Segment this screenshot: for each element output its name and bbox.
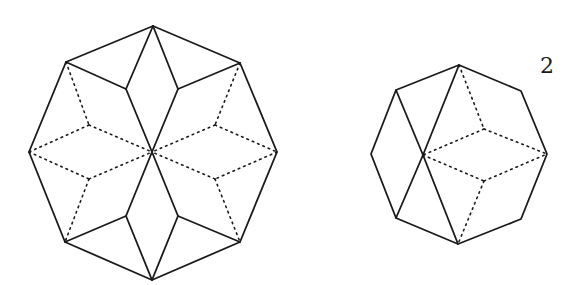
solid-edge [126, 89, 152, 152]
solid-edge [396, 155, 423, 218]
solid-edge [152, 152, 178, 216]
solid-edge [396, 90, 423, 155]
small-octagon-solid-edges [396, 65, 459, 244]
geometry-diagram: 2 [0, 0, 578, 285]
solid-edge [178, 216, 240, 242]
solid-edge [152, 89, 178, 152]
large-octagon-dotted-edges [29, 62, 277, 242]
small-octagon-dotted-edges [423, 65, 547, 244]
solid-edge [126, 152, 152, 216]
solid-edge [423, 65, 459, 155]
large-octagon [29, 26, 277, 280]
solid-edge [65, 216, 126, 242]
large-octagon-solid-edges [65, 26, 240, 280]
small-octagon [371, 65, 547, 244]
figure-number-label: 2 [540, 53, 554, 78]
